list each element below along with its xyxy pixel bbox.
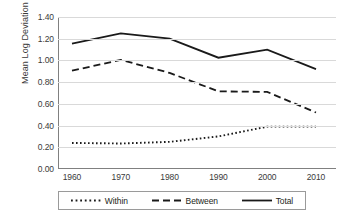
y-tick-label: 0.20 [24,142,54,152]
legend-label: Total [276,196,293,206]
gridline [58,82,336,83]
x-tick-label: 1960 [52,172,92,182]
gridline [58,60,336,61]
legend-label: Between [186,196,218,206]
gridline [58,104,336,105]
y-tick-label: 0.40 [24,121,54,131]
x-tick-label: 1970 [101,172,141,182]
y-tick-label: 1.00 [24,55,54,65]
legend-item-within[interactable]: Within [71,196,128,206]
gridline [58,39,336,40]
x-tick-label: 1980 [150,172,190,182]
series-paths [58,17,336,169]
y-tick-label: 1.20 [24,34,54,44]
series-line-within [72,127,316,144]
x-tick-label: 2000 [247,172,287,182]
x-axis-tick-labels: 196019701980199020002010 [58,172,336,188]
legend-item-total[interactable]: Total [242,196,293,206]
y-tick-label: 0.80 [24,77,54,87]
y-tick-label: 1.40 [24,12,54,22]
y-tick-label: 0.00 [24,164,54,174]
y-axis-tick-labels: 0.000.200.400.600.801.001.201.40 [24,0,54,218]
gridline [58,17,336,18]
x-tick-label: 1990 [198,172,238,182]
gridline [58,147,336,148]
legend-swatch-dashed-icon [152,196,182,205]
legend-swatch-dotted-icon [71,196,101,205]
x-tick-label: 2010 [296,172,336,182]
plot-area [58,17,336,169]
legend-label: Within [105,196,128,206]
gridline [58,126,336,127]
y-tick-label: 0.60 [24,99,54,109]
legend-swatch-solid-icon [242,196,272,205]
chart-legend: WithinBetweenTotal [58,191,306,210]
mean-log-deviation-line-chart: Mean Log Deviation 0.000.200.400.600.801… [0,0,350,218]
legend-item-between[interactable]: Between [152,196,218,206]
